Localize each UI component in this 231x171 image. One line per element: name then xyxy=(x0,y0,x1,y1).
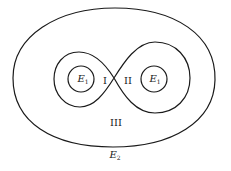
diagram-canvas xyxy=(0,0,231,171)
label-e1-left: E1 xyxy=(77,74,88,87)
label-e2: E2 xyxy=(109,150,120,163)
figure-eight-curve xyxy=(54,42,190,113)
label-e1-right: E1 xyxy=(149,74,160,87)
label-region-ii: II xyxy=(124,76,132,86)
label-region-iii: III xyxy=(110,118,122,128)
label-region-i: I xyxy=(103,76,107,86)
